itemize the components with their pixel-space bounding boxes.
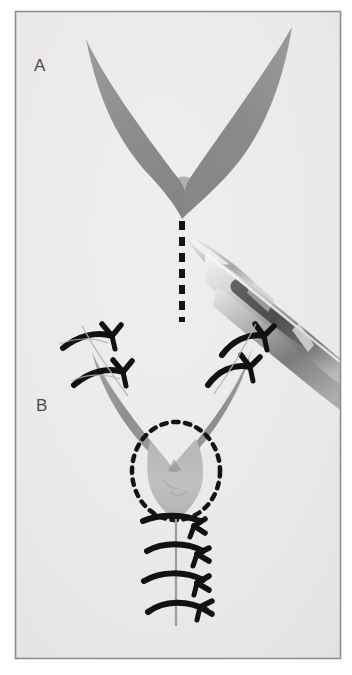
- surgical-illustration: A: [0, 0, 352, 675]
- panel-label-b: B: [36, 396, 48, 415]
- panel-label-a: A: [34, 56, 46, 75]
- figure-container: A: [0, 0, 352, 675]
